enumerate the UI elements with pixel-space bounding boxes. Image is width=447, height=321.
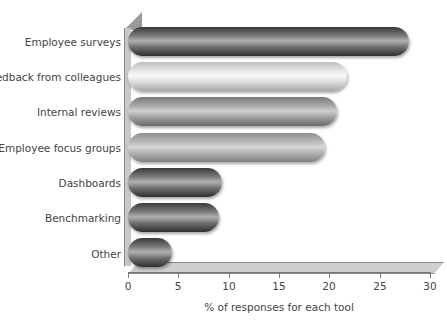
bar-benchmarking (128, 203, 219, 232)
x-tick-label: 10 (222, 280, 235, 292)
category-label: Employee surveys (25, 36, 121, 48)
bar-chart: Employee surveys Feedback from colleague… (0, 0, 447, 321)
x-tick-label: 30 (423, 280, 436, 292)
category-label: Employee focus groups (0, 142, 121, 154)
bar-internal-reviews (128, 97, 337, 126)
x-tick (279, 272, 280, 278)
x-tick (128, 272, 129, 278)
x-tick (430, 272, 431, 278)
x-tick-label: 25 (373, 280, 386, 292)
x-tick (229, 272, 230, 278)
category-label: Other (91, 248, 121, 260)
x-tick-label: 0 (125, 280, 132, 292)
x-tick (380, 272, 381, 278)
bar-employee-focus-groups (128, 133, 325, 162)
bar-employee-surveys (128, 27, 409, 56)
x-tick-label: 5 (175, 280, 182, 292)
x-tick (329, 272, 330, 278)
x-tick (178, 272, 179, 278)
category-label: Benchmarking (45, 212, 121, 224)
bar-feedback-from-colleagues (128, 62, 347, 91)
category-label: Dashboards (59, 177, 121, 189)
x-tick-label: 20 (322, 280, 335, 292)
x-tick-label: 15 (272, 280, 285, 292)
x-axis-title: % of responses for each tool (204, 301, 354, 313)
bar-dashboards (128, 168, 222, 197)
bar-other (128, 238, 172, 267)
category-label: Feedback from colleagues (0, 71, 121, 83)
category-label: Internal reviews (37, 106, 121, 118)
